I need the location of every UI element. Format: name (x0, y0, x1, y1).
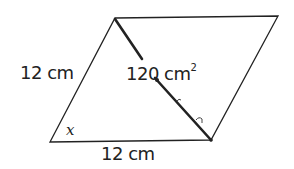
height-marker-lower (155, 78, 211, 140)
area-label: 120 cm2 (126, 65, 196, 83)
tick-mark-1 (177, 99, 181, 101)
right-angle-arc (196, 118, 202, 123)
height-marker-upper (115, 19, 142, 59)
area-exponent: 2 (191, 62, 197, 73)
bottom-side-length-label: 12 cm (101, 145, 155, 163)
angle-x-label: x (66, 123, 74, 138)
area-value: 120 cm (126, 63, 191, 84)
vertex-bottom-right (209, 138, 213, 142)
left-side-length-label: 12 cm (20, 64, 74, 82)
